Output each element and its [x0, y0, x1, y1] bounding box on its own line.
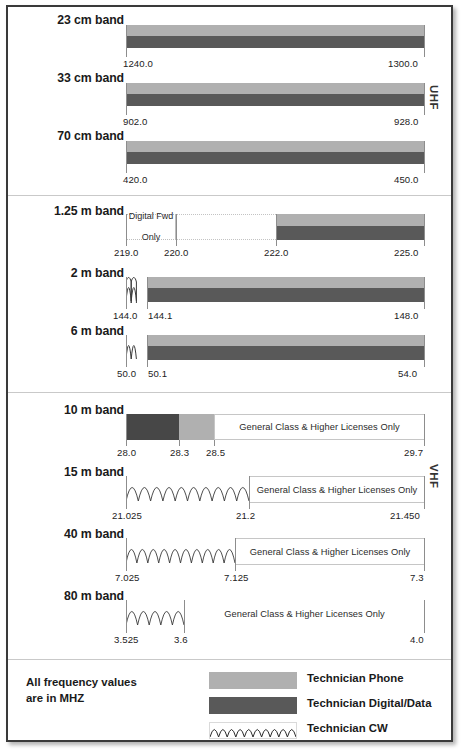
tick-label: 222.0 — [264, 247, 289, 258]
tick-mark — [176, 214, 177, 246]
band-lane-23cm: 1240.0 1300.0 — [126, 13, 425, 71]
tick-mark — [424, 141, 425, 173]
segment-digital — [126, 152, 425, 164]
segment-cw — [126, 600, 184, 627]
cw-waveform-icon — [126, 335, 147, 361]
band-lane-125m: Digital FwdOnly 219.0 220.0 222.0 225.0 — [126, 204, 425, 262]
band-row-70cm: 70 cm band 420.0 450.0 — [8, 129, 451, 187]
segment-phone — [276, 214, 425, 226]
tick-mark — [214, 440, 215, 446]
group-label-uhf: UHF — [428, 85, 440, 110]
cw-waveform-icon — [126, 476, 249, 503]
band-row-80m: 80 m band General Class & Higher License… — [8, 589, 451, 647]
tick-label: 3.525 — [114, 634, 139, 645]
segment-phone — [126, 25, 425, 36]
tick-label: 144.1 — [148, 310, 173, 321]
general-class-box: General Class & Higher Licenses Only — [214, 414, 425, 440]
tick-mark — [424, 214, 425, 246]
band-label-15m: 15 m band — [20, 465, 124, 479]
tick-mark — [126, 277, 127, 309]
legend-label-digital: Technician Digital/Data — [307, 697, 431, 709]
tick-mark — [424, 600, 425, 633]
tick-label: 219.0 — [114, 247, 139, 258]
tick-label-min: 902.0 — [123, 116, 148, 127]
band-label-23cm: 23 cm band — [20, 13, 124, 27]
tick-label: 28.5 — [206, 447, 225, 458]
general-class-label: General Class & Higher Licenses Only — [239, 422, 399, 432]
tick-label: 50.0 — [117, 368, 136, 379]
legend: All frequency valuesare in MHZ Technicia… — [8, 660, 451, 740]
tick-label-max: 928.0 — [394, 116, 419, 127]
tick-label: 21.450 — [390, 510, 420, 521]
tick-label: 28.3 — [170, 447, 189, 458]
general-class-label: General Class & Higher Licenses Only — [224, 609, 384, 619]
section-vhf: 1.25 m band Digital FwdOnly 219.0 — [8, 196, 451, 392]
segment-phone — [126, 83, 425, 94]
band-label-33cm: 33 cm band — [20, 71, 124, 85]
band-lane-80m: General Class & Higher Licenses Only 3.5… — [126, 589, 425, 647]
tick-label: 225.0 — [394, 247, 419, 258]
tick-mark — [424, 277, 425, 309]
band-label-80m: 80 m band — [20, 589, 124, 603]
band-row-33cm: 33 cm band 902.0 928.0 — [8, 71, 451, 129]
band-label-40m: 40 m band — [20, 527, 124, 541]
band-lane-70cm: 420.0 450.0 — [126, 129, 425, 187]
tick-mark — [235, 538, 236, 571]
tick-label: 21.025 — [112, 510, 142, 521]
tick-mark — [126, 25, 127, 57]
segment-digital — [126, 94, 425, 106]
segment-cw — [126, 476, 249, 503]
tick-label: 7.025 — [115, 572, 140, 583]
section-uhf: 23 cm band 1240.0 1300.0 33 cm band — [8, 7, 451, 195]
segment-phone — [126, 141, 425, 152]
band-label-125m: 1.25 m band — [20, 204, 124, 218]
tick-mark — [126, 600, 127, 633]
tick-mark — [424, 25, 425, 57]
cw-waveform-icon — [126, 600, 184, 627]
band-lane-33cm: 902.0 928.0 — [126, 71, 425, 129]
band-row-6m: 6 m band 50.0 50.1 54.0 — [8, 324, 451, 382]
segment-digital — [147, 288, 425, 302]
digital-fwd-only-label: Digital FwdOnly — [129, 211, 174, 243]
tick-label: 4.0 — [410, 634, 424, 645]
tick-mark — [126, 214, 127, 246]
tick-mark — [424, 538, 425, 571]
tick-mark — [424, 414, 425, 446]
tick-label: 29.7 — [404, 447, 423, 458]
band-lane-40m: General Class & Higher Licenses Only 7.0… — [126, 527, 425, 585]
cw-swatch — [209, 722, 297, 739]
tick-mark — [147, 277, 148, 309]
tick-mark — [126, 335, 127, 367]
band-label-70cm: 70 cm band — [20, 129, 124, 143]
tick-mark — [276, 214, 277, 246]
tick-mark — [126, 414, 127, 446]
tick-label-min: 420.0 — [123, 174, 148, 185]
phone-swatch — [209, 672, 297, 689]
segment-phone — [147, 277, 425, 288]
tick-mark — [424, 476, 425, 509]
segment-cw — [126, 335, 147, 361]
tick-mark — [179, 440, 180, 446]
tick-label-min: 1240.0 — [123, 58, 153, 69]
tick-label: 144.0 — [113, 310, 138, 321]
segment-phone — [179, 414, 214, 440]
band-row-15m: 15 m band General Class & Higher License… — [8, 465, 451, 523]
segment-digital — [126, 414, 179, 440]
tick-mark — [147, 335, 148, 367]
tick-label: 50.1 — [148, 368, 167, 379]
tick-label: 28.0 — [117, 447, 136, 458]
general-class-box: General Class & Higher Licenses Only — [249, 476, 425, 503]
band-lane-6m: 50.0 50.1 54.0 — [126, 324, 425, 382]
tick-label: 7.3 — [410, 572, 424, 583]
digital-swatch — [209, 697, 297, 714]
tick-mark — [424, 83, 425, 115]
band-row-40m: 40 m band General Class & Higher License… — [8, 527, 451, 585]
digital-fwd-only-box: Digital FwdOnly — [126, 214, 176, 240]
empty-gap-region — [176, 214, 276, 240]
tick-label-max: 450.0 — [394, 174, 419, 185]
tick-label: 21.2 — [236, 510, 255, 521]
band-lane-10m: General Class & Higher Licenses Only 28.… — [126, 403, 425, 461]
segment-digital — [276, 226, 425, 240]
band-row-125m: 1.25 m band Digital FwdOnly 219.0 — [8, 204, 451, 262]
units-note: All frequency valuesare in MHZ — [26, 674, 176, 706]
